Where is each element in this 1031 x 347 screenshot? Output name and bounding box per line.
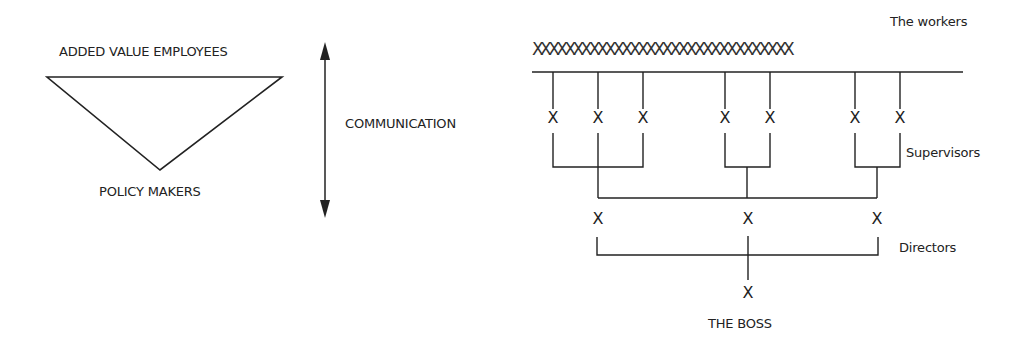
supervisor-node: X <box>593 110 604 126</box>
workers-label: The workers <box>890 14 967 29</box>
supervisors-label: Supervisors <box>906 145 980 160</box>
director-bracket <box>597 236 878 280</box>
policy-makers-label: POLICY MAKERS <box>99 184 201 199</box>
supervisor-node: X <box>850 110 861 126</box>
workers-row: XXXXXXXXXXXXXXXXXXXXXXXXXXXXXXXX <box>532 40 956 58</box>
supervisor-node: X <box>720 110 731 126</box>
communication-arrow-icon <box>320 42 330 218</box>
director-node: X <box>593 211 604 227</box>
worker-drops <box>553 72 900 109</box>
supervisor-brackets <box>553 133 900 198</box>
communication-label: COMMUNICATION <box>345 116 456 131</box>
boss-node: X <box>743 285 754 301</box>
added-value-employees-label: ADDED VALUE EMPLOYEES <box>59 44 228 59</box>
supervisor-node: X <box>765 110 776 126</box>
director-node: X <box>872 211 883 227</box>
inverted-triangle <box>47 77 282 170</box>
supervisor-node: X <box>548 110 559 126</box>
directors-label: Directors <box>899 240 956 255</box>
director-node: X <box>743 211 754 227</box>
supervisor-node: X <box>895 110 906 126</box>
boss-label: THE BOSS <box>708 316 772 331</box>
supervisor-node: X <box>638 110 649 126</box>
